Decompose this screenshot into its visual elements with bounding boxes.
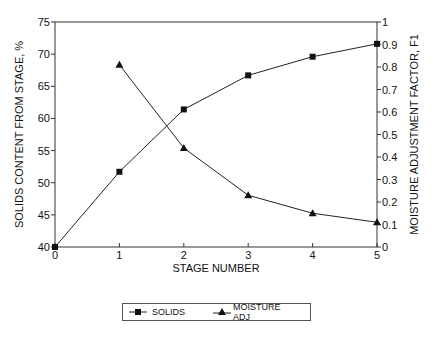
triangle-marker-icon: [244, 191, 252, 198]
right-y-tick-label: 0.3: [382, 174, 397, 186]
right-y-tick-label: 0.4: [382, 151, 397, 163]
right-y-tick-label: 0.5: [382, 129, 397, 141]
square-marker-icon: [52, 244, 58, 250]
plot-frame: [55, 22, 377, 247]
square-marker-icon: [245, 72, 251, 78]
x-tick-label: 2: [181, 249, 187, 261]
right-y-tick-label: 0.8: [382, 61, 397, 73]
right-y-tick-label: 0.9: [382, 39, 397, 51]
series-moisture-adj: [115, 61, 381, 226]
triangle-marker-icon: [115, 61, 123, 68]
square-marker-icon: [129, 307, 147, 317]
x-tick-label: 1: [116, 249, 122, 261]
right-y-axis-title: MOISTURE ADJUSTMENT FACTOR, F1: [408, 34, 420, 235]
x-tick-label: 3: [245, 249, 251, 261]
triangle-marker-icon: [213, 307, 228, 317]
x-tick-label: 4: [310, 249, 316, 261]
right-y-tick-label: 0.7: [382, 84, 397, 96]
legend-label-moisture-adj: MOISTURE ADJ: [233, 302, 288, 322]
left-y-tick-label: 50: [38, 177, 50, 189]
left-y-tick-label: 75: [38, 16, 50, 28]
series-solids: [52, 41, 380, 250]
right-y-tick-label: 0.1: [382, 219, 397, 231]
x-axis-title: STAGE NUMBER: [172, 262, 259, 274]
square-marker-icon: [181, 106, 187, 112]
x-tick-label: 5: [374, 249, 380, 261]
square-marker-icon: [374, 41, 380, 47]
right-y-tick-label: 1: [382, 16, 388, 28]
right-y-axis: 00.10.20.30.40.50.60.70.80.91: [377, 16, 397, 253]
x-axis: 012345: [52, 243, 380, 261]
x-tick-label: 0: [52, 249, 58, 261]
left-y-tick-label: 45: [38, 209, 50, 221]
legend-label-solids: SOLIDS: [152, 307, 185, 317]
left-y-tick-label: 70: [38, 48, 50, 60]
legend-item-solids: SOLIDS: [129, 307, 185, 317]
legend-item-moisture-adj: MOISTURE ADJ: [213, 302, 288, 322]
right-y-tick-label: 0.6: [382, 106, 397, 118]
left-y-axis-title: SOLIDS CONTENT FROM STAGE, %: [13, 41, 25, 228]
left-y-tick-label: 55: [38, 145, 50, 157]
right-y-tick-label: 0.2: [382, 196, 397, 208]
square-marker-icon: [116, 169, 122, 175]
legend: SOLIDS MOISTURE ADJ: [122, 303, 311, 321]
dual-axis-line-chart: 012345 4045505560657075 00.10.20.30.40.5…: [0, 0, 436, 300]
left-y-tick-label: 65: [38, 80, 50, 92]
right-y-tick-label: 0: [382, 241, 388, 253]
square-marker-icon: [310, 54, 316, 60]
left-y-tick-label: 40: [38, 241, 50, 253]
left-y-axis: 4045505560657075: [38, 16, 55, 253]
left-y-tick-label: 60: [38, 112, 50, 124]
